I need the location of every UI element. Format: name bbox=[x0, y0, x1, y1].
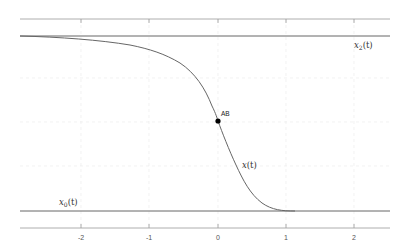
tick-label: -2 bbox=[78, 234, 84, 241]
tick-label: -1 bbox=[146, 234, 152, 241]
point-ab bbox=[215, 118, 220, 123]
curve-label: x(t) bbox=[242, 160, 257, 170]
tick-label: 1 bbox=[284, 234, 288, 241]
point-ab-label: AB bbox=[221, 110, 230, 117]
x0-label: x0(t) bbox=[59, 197, 78, 208]
tick-label: 2 bbox=[352, 234, 356, 241]
top-axis bbox=[20, 19, 390, 23]
x2-label: x2(t) bbox=[354, 40, 373, 51]
tick-label: 0 bbox=[216, 234, 220, 241]
x-curve bbox=[20, 36, 295, 211]
x-tick-labels: -2 -1 0 1 2 bbox=[78, 234, 356, 241]
bottom-axis bbox=[20, 224, 390, 228]
chart: -2 -1 0 1 2 AB x(t) x2(t) x0(t) bbox=[0, 0, 410, 250]
